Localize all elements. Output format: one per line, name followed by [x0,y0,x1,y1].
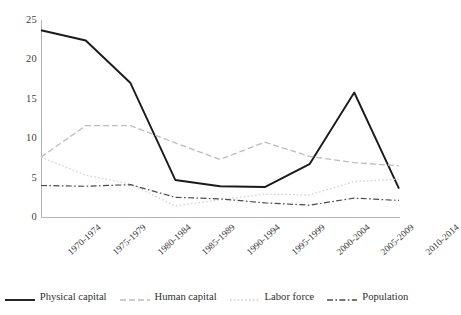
legend-item-human-capital[interactable]: Human capital [120,291,217,302]
x-axis-tick-label: 1970-1974 [66,222,103,257]
x-axis-tick-label: 1975-1979 [110,222,147,257]
series-line-physical-capital [41,30,399,188]
x-axis-tick-label: 1990-1994 [245,222,282,257]
series-line-labor-force [41,157,399,206]
legend-swatch-icon [327,291,357,301]
x-axis-tick-label: 1985-1989 [200,222,237,257]
legend-item-labor-force[interactable]: Labor force [230,291,315,302]
series-line-population [41,185,399,205]
legend-item-physical-capital[interactable]: Physical capital [5,291,107,302]
legend-label: Human capital [155,291,217,302]
x-axis-tick-label: 2000-2004 [334,222,371,257]
x-axis-tick-label: 2010-2014 [424,222,461,257]
legend-label: Population [362,291,408,302]
chart-legend: Physical capitalHuman capitalLabor force… [0,285,413,307]
legend-label: Labor force [265,291,315,302]
legend-swatch-icon [5,291,35,301]
legend-label: Physical capital [40,291,107,302]
series-line-human-capital [41,126,399,166]
x-axis-tick-label: 1980-1984 [155,222,192,257]
legend-swatch-icon [120,291,150,301]
legend-swatch-icon [230,291,260,301]
x-axis-tick-label: 1995-1999 [289,222,326,257]
x-axis-tick-labels: 1970-19741975-19791980-19841985-19891990… [41,218,400,280]
legend-item-population[interactable]: Population [327,291,408,302]
